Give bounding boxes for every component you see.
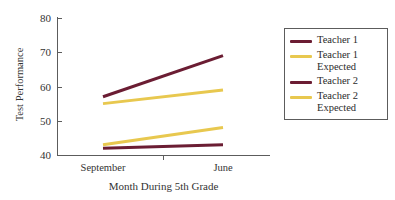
- series-line-teacher-1: [103, 56, 223, 97]
- y-tick-label-50: 50: [29, 116, 51, 127]
- series-line-teacher-2: [103, 145, 223, 148]
- x-tick-label-june: June: [213, 163, 232, 174]
- y-tick-mark-80: [58, 18, 62, 19]
- x-tick-label-september: September: [81, 163, 126, 174]
- legend-item-teacher-1[interactable]: Teacher 1: [290, 34, 383, 46]
- series-line-teacher-1-expected: [103, 90, 223, 104]
- legend-item-teacher-1-expected[interactable]: Teacher 1 Expected: [290, 49, 383, 73]
- legend-label: Teacher 1: [317, 34, 358, 46]
- legend-swatch-icon: [290, 81, 312, 84]
- legend-item-teacher-2-expected[interactable]: Teacher 2 Expected: [290, 90, 383, 114]
- y-tick-label-80: 80: [29, 13, 51, 24]
- legend-swatch-icon: [290, 40, 312, 43]
- y-tick-mark-50: [58, 121, 62, 122]
- y-tick-mark-60: [58, 87, 62, 88]
- legend-item-teacher-2[interactable]: Teacher 2: [290, 75, 383, 87]
- legend: Teacher 1 Teacher 1 Expected Teacher 2 T…: [284, 28, 388, 120]
- series-group: [103, 56, 223, 148]
- legend-label: Teacher 2 Expected: [317, 90, 358, 114]
- y-axis-title: Test Performance: [14, 35, 25, 135]
- legend-swatch-icon: [290, 96, 312, 99]
- y-tick-mark-70: [58, 52, 62, 53]
- series-line-teacher-2-expected: [103, 128, 223, 145]
- y-tick-mark-40: [58, 155, 62, 156]
- chart-figure: 80 70 60 50 40 September June Test Perfo…: [0, 0, 395, 200]
- y-tick-label-60: 60: [29, 82, 51, 93]
- legend-label: Teacher 1 Expected: [317, 49, 358, 73]
- legend-label: Teacher 2: [317, 75, 358, 87]
- y-tick-label-70: 70: [29, 47, 51, 58]
- y-tick-label-40: 40: [29, 150, 51, 161]
- x-axis-title: Month During 5th Grade: [57, 180, 270, 192]
- legend-swatch-icon: [290, 55, 312, 58]
- x-tick-mark-mid: [163, 156, 164, 160]
